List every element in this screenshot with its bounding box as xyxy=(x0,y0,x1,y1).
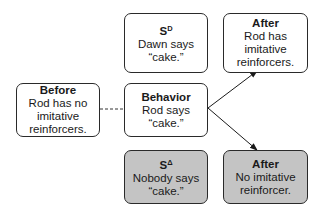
before-text-line: imitative xyxy=(37,110,79,123)
behavior-box: Behavior Rod says “cake.” xyxy=(124,83,208,137)
after-top-box: After Rod has imitative reinforcers. xyxy=(223,13,308,73)
behavior-title: Behavior xyxy=(141,91,190,104)
behavior-text-line: “cake.” xyxy=(148,117,183,130)
sdelta-title: SΔ xyxy=(159,156,172,172)
after-top-text-line: reinforcers. xyxy=(237,56,295,69)
sd-title: SD xyxy=(159,22,172,38)
after-top-title: After xyxy=(252,17,279,30)
behavior-text-line: Rod says xyxy=(142,104,190,117)
after-bottom-title: After xyxy=(252,158,279,171)
after-bottom-text-line: reinforcer. xyxy=(240,184,291,197)
after-top-text-line: Rod has xyxy=(244,30,287,43)
sdelta-box: SΔ Nobody says “cake.” xyxy=(124,150,208,204)
before-title: Before xyxy=(40,84,76,97)
sdelta-text-line: Nobody says xyxy=(133,172,199,185)
arrow-to-after-top xyxy=(208,71,257,108)
before-box: Before Rod has no imitative reinforcers. xyxy=(16,83,100,137)
before-text-line: Rod has no xyxy=(29,97,88,110)
after-top-text-line: imitative xyxy=(244,43,286,56)
sd-text-line: “cake.” xyxy=(148,51,183,64)
sdelta-text-line: “cake.” xyxy=(148,185,183,198)
sd-box: SD Dawn says “cake.” xyxy=(124,13,208,73)
after-bottom-text-line: No imitative xyxy=(235,171,295,184)
arrow-to-after-bottom xyxy=(208,108,257,150)
before-text-line: reinforcers. xyxy=(29,123,87,136)
after-bottom-box: After No imitative reinforcer. xyxy=(223,150,308,204)
sd-text-line: Dawn says xyxy=(138,38,194,51)
